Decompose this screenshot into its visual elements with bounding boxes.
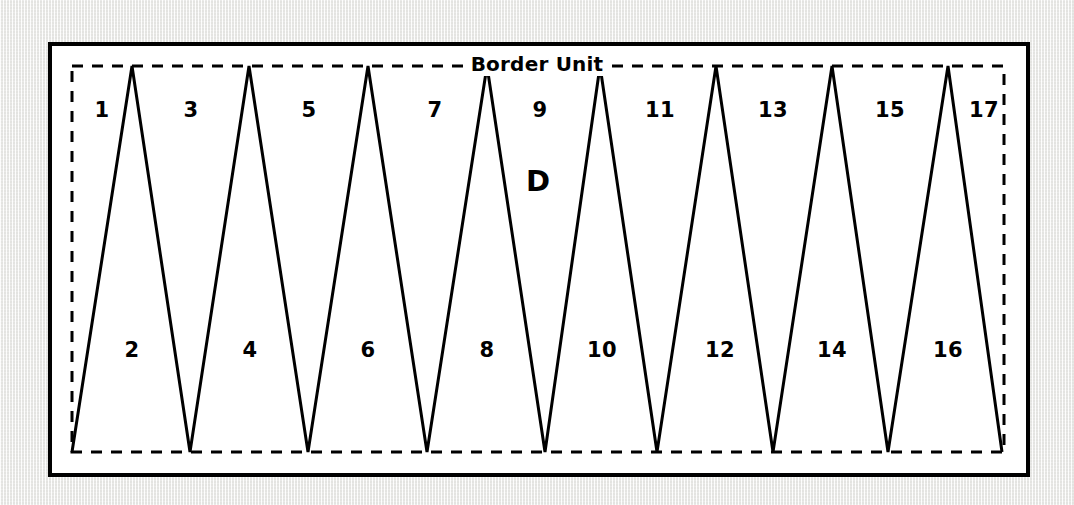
triangle-number-1: 1 bbox=[94, 98, 109, 122]
triangle-number-14: 14 bbox=[817, 338, 847, 362]
triangle-number-16: 16 bbox=[933, 338, 963, 362]
region-label-d: D bbox=[526, 164, 550, 198]
triangle-number-13: 13 bbox=[758, 98, 788, 122]
triangle-number-15: 15 bbox=[875, 98, 905, 122]
triangle-number-17: 17 bbox=[969, 98, 999, 122]
triangle-number-8: 8 bbox=[479, 338, 494, 362]
triangle-number-11: 11 bbox=[645, 98, 675, 122]
triangle-number-4: 4 bbox=[242, 338, 257, 362]
zigzag-polyline bbox=[72, 66, 1002, 452]
triangle-number-2: 2 bbox=[124, 338, 139, 362]
triangle-number-9: 9 bbox=[532, 98, 547, 122]
triangle-number-3: 3 bbox=[183, 98, 198, 122]
triangle-number-6: 6 bbox=[360, 338, 375, 362]
triangle-number-10: 10 bbox=[587, 338, 617, 362]
diagram-title: Border Unit bbox=[467, 52, 608, 76]
dashed-border-rect bbox=[72, 66, 1004, 452]
triangle-number-12: 12 bbox=[705, 338, 735, 362]
triangle-number-7: 7 bbox=[427, 98, 442, 122]
triangle-number-5: 5 bbox=[301, 98, 316, 122]
